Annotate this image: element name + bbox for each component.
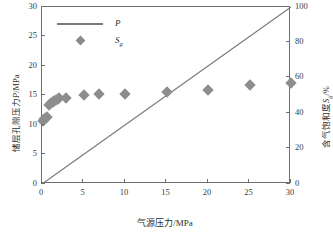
data-point [161, 87, 172, 98]
y-right-unit: /% [321, 86, 331, 95]
y-right-tick-label: 40 [295, 108, 317, 117]
data-point [78, 89, 89, 100]
data-point [94, 89, 105, 100]
y-left-unit: /MPa [11, 74, 21, 92]
data-point [60, 92, 71, 103]
y-right-tick-label: 60 [295, 72, 317, 81]
data-point [244, 79, 255, 90]
data-point [119, 88, 130, 99]
chart-legend: P Sg [57, 16, 147, 50]
y-right-tick-label: 80 [295, 37, 317, 46]
y-left-cn: 储层孔隙压力 [11, 98, 21, 152]
y-left-tick-mark [41, 183, 45, 184]
x-tick-label: 20 [195, 188, 219, 197]
y-right-symbol: S [321, 99, 331, 103]
y-right-tick-label: 100 [295, 2, 317, 11]
y-axis-left-title: 储层孔隙压力P/MPa [12, 74, 21, 152]
data-point [202, 85, 213, 96]
y-left-tick-label: 25 [15, 31, 37, 40]
y-left-tick-label: 20 [15, 61, 37, 70]
x-tick-label: 30 [278, 188, 302, 197]
x-tick-mark [82, 179, 83, 183]
y-right-tick-mark [286, 183, 290, 184]
y-right-tick-label: 0 [295, 179, 317, 188]
x-tick-label: 10 [112, 188, 136, 197]
y-right-tick-mark [286, 147, 290, 148]
y-right-tick-mark [286, 112, 290, 113]
y-right-cn: 含气饱和度 [321, 103, 331, 148]
y-right-tick-mark [286, 76, 290, 77]
x-tick-mark [124, 179, 125, 183]
y-axis-right-title: 含气饱和度Sg/% [322, 86, 333, 148]
y-left-tick-mark [41, 124, 45, 125]
y-right-sub: g [326, 96, 333, 99]
y-left-tick-label: 30 [15, 2, 37, 11]
y-left-tick-mark [41, 65, 45, 66]
x-tick-label: 5 [71, 188, 95, 197]
legend-label-Sg: Sg [115, 35, 123, 47]
legend-label-P: P [115, 18, 121, 28]
x-tick-mark [165, 179, 166, 183]
y-left-tick-mark [41, 6, 45, 7]
x-tick-label: 15 [154, 188, 178, 197]
legend-line-swatch [57, 23, 103, 25]
x-tick-mark [248, 179, 249, 183]
y-right-tick-mark [286, 41, 290, 42]
x-tick-label: 25 [237, 188, 261, 197]
x-tick-label: 0 [29, 188, 53, 197]
legend-label-Sg-sub: g [120, 40, 123, 47]
y-left-tick-mark [41, 35, 45, 36]
y-left-tick-mark [41, 94, 45, 95]
legend-diamond-swatch [76, 36, 86, 46]
x-axis-title: 气源压力/MPa [0, 216, 330, 229]
y-left-tick-label: 0 [15, 179, 37, 188]
y-right-tick-label: 20 [295, 143, 317, 152]
y-left-tick-mark [41, 153, 45, 154]
y-right-tick-mark [286, 6, 290, 7]
x-tick-mark [207, 179, 208, 183]
legend-entry-Sg: Sg [57, 33, 147, 50]
legend-entry-P: P [57, 16, 147, 33]
y-left-symbol: P [11, 93, 21, 98]
